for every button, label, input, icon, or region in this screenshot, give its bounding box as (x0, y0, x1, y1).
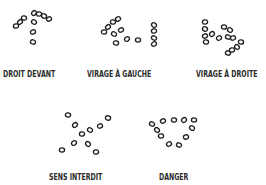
sign-virage-a-droite (202, 20, 244, 56)
label-virage-a-gauche: VIRAGE À GAUCHE (87, 70, 151, 79)
pebble (216, 35, 223, 41)
pebble (30, 29, 36, 35)
pebble (118, 27, 124, 33)
pebble (149, 121, 156, 127)
pebble (105, 115, 111, 121)
pebble-signs-diagram: DROIT DEVANT VIRAGE À GAUCHE VIRAGE À DR… (0, 0, 266, 185)
pebble (166, 141, 173, 147)
label-droit-devant: DROIT DEVANT (3, 70, 55, 79)
pebble (101, 30, 107, 35)
pebble (203, 39, 209, 44)
label-danger: DANGER (159, 173, 188, 182)
pebble (160, 118, 166, 124)
pebble (183, 134, 189, 140)
pebble (154, 127, 161, 134)
pebble (227, 27, 234, 33)
pebble (31, 19, 38, 25)
pebble (202, 20, 208, 25)
pebble (93, 149, 99, 154)
pebble (113, 40, 119, 45)
pebble (151, 28, 157, 33)
pebble (13, 24, 18, 28)
pebble (191, 118, 196, 122)
pebble (79, 132, 84, 137)
pebble (202, 26, 209, 32)
pebble (189, 125, 196, 131)
pebble (30, 39, 36, 45)
pebble (97, 123, 103, 129)
pebble (71, 140, 78, 146)
pebble (151, 41, 158, 47)
pebble (105, 24, 112, 31)
pebble (202, 33, 208, 39)
pebble (111, 31, 118, 37)
label-virage-a-droite: VIRAGE À DROITE (196, 70, 257, 79)
pebble (176, 142, 182, 148)
pebble (158, 134, 163, 139)
pebble-layer (0, 0, 266, 185)
pebble (85, 141, 92, 148)
pebble (110, 19, 116, 24)
pebble (221, 25, 226, 29)
pebble (87, 127, 94, 133)
pebble (59, 148, 64, 152)
pebble (238, 40, 243, 44)
pebble (209, 31, 216, 38)
sign-droit-devant (13, 10, 52, 45)
pebble (225, 34, 231, 40)
pebble (135, 38, 140, 42)
sign-virage-a-gauche (101, 16, 157, 47)
pebble (181, 117, 188, 124)
pebble (65, 112, 71, 117)
pebble (151, 35, 157, 41)
pebble (72, 122, 79, 129)
pebble (124, 36, 131, 42)
sign-danger (149, 117, 197, 148)
label-sens-interdit: SENS INTERDIT (49, 173, 102, 182)
pebble (151, 22, 158, 28)
sign-sens-interdit (59, 112, 111, 154)
pebble (171, 117, 177, 122)
